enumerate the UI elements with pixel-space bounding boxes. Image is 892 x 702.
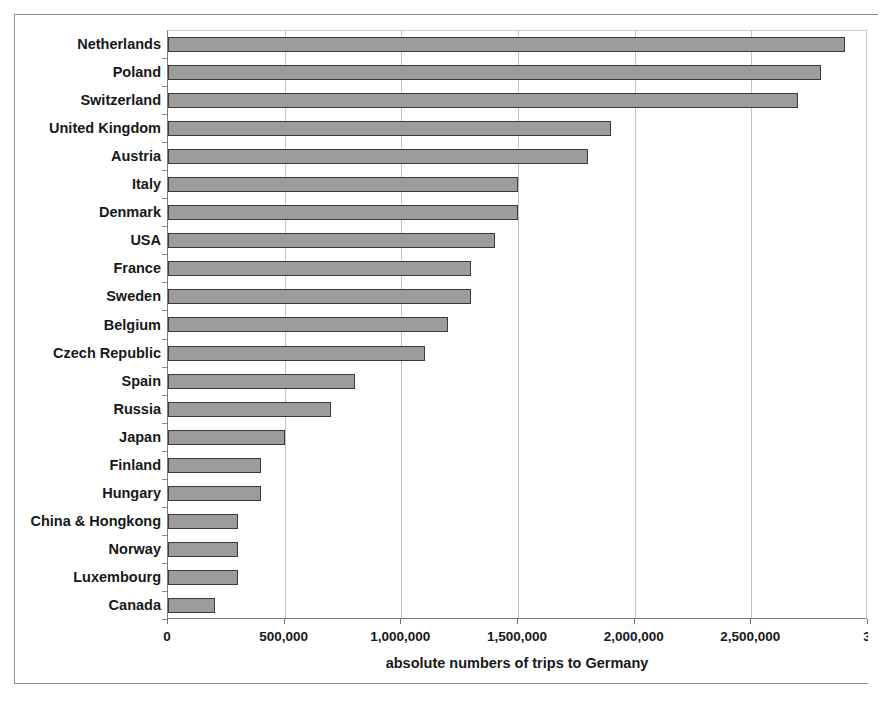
x-tick-label: 1,500,000 [487, 629, 547, 644]
bar[interactable] [168, 93, 798, 108]
bar-row [168, 311, 866, 339]
bar[interactable] [168, 289, 471, 304]
bar-row [168, 340, 866, 368]
bar[interactable] [168, 374, 355, 389]
y-tick-mark [162, 507, 167, 508]
bar-row [168, 452, 866, 480]
category-label: Switzerland [16, 93, 161, 108]
bar[interactable] [168, 233, 495, 248]
bar[interactable] [168, 570, 238, 585]
y-tick-mark [162, 114, 167, 115]
bar-row [168, 283, 866, 311]
right-edge-clip-mask [868, 15, 879, 685]
category-label: Japan [16, 430, 161, 445]
bar-series [168, 31, 866, 618]
bar[interactable] [168, 177, 518, 192]
category-label: France [16, 261, 161, 276]
bar-row [168, 368, 866, 396]
x-tick-mark [400, 619, 401, 624]
y-tick-mark [162, 563, 167, 564]
bar-row [168, 592, 866, 620]
category-label: Luxembourg [16, 570, 161, 585]
bar[interactable] [168, 458, 261, 473]
y-tick-mark [162, 367, 167, 368]
bar[interactable] [168, 317, 448, 332]
bar-row [168, 171, 866, 199]
x-tick-label: 2,500,000 [720, 629, 780, 644]
bar[interactable] [168, 37, 845, 52]
y-tick-mark [162, 451, 167, 452]
category-label: China & Hongkong [16, 514, 161, 529]
bar[interactable] [168, 205, 518, 220]
y-tick-mark [162, 226, 167, 227]
category-label: Austria [16, 149, 161, 164]
bar[interactable] [168, 486, 261, 501]
y-tick-mark [162, 339, 167, 340]
y-tick-mark [162, 58, 167, 59]
y-tick-mark [162, 198, 167, 199]
bar-row [168, 115, 866, 143]
bar-row [168, 87, 866, 115]
bar-row [168, 564, 866, 592]
bar-row [168, 143, 866, 171]
x-tick-mark [167, 619, 168, 624]
category-label: Russia [16, 402, 161, 417]
bar-row [168, 508, 866, 536]
x-tick-label: 500,000 [259, 629, 308, 644]
y-tick-mark [162, 423, 167, 424]
x-tick-mark [517, 619, 518, 624]
y-tick-mark [162, 591, 167, 592]
x-tick-mark [750, 619, 751, 624]
x-tick-mark [634, 619, 635, 624]
bar[interactable] [168, 121, 611, 136]
bar-row [168, 59, 866, 87]
y-tick-mark [162, 170, 167, 171]
category-label: Hungary [16, 486, 161, 501]
bar[interactable] [168, 514, 238, 529]
y-tick-mark [162, 479, 167, 480]
x-tick-label: 0 [163, 629, 171, 644]
bar[interactable] [168, 149, 588, 164]
y-tick-mark [162, 395, 167, 396]
bar-row [168, 424, 866, 452]
y-tick-mark [162, 142, 167, 143]
bar[interactable] [168, 542, 238, 557]
category-label: Canada [16, 598, 161, 613]
y-tick-mark [162, 86, 167, 87]
bar-row [168, 536, 866, 564]
y-tick-mark [162, 535, 167, 536]
y-tick-mark [162, 282, 167, 283]
x-tick-mark [284, 619, 285, 624]
y-tick-mark [162, 254, 167, 255]
x-tick-label: 1,000,000 [370, 629, 430, 644]
bar[interactable] [168, 346, 425, 361]
x-axis-title: absolute numbers of trips to Germany [167, 655, 867, 671]
category-label: Netherlands [16, 37, 161, 52]
bar[interactable] [168, 430, 285, 445]
category-label: Belgium [16, 318, 161, 333]
category-label: Italy [16, 177, 161, 192]
category-label: Finland [16, 458, 161, 473]
category-label: Spain [16, 374, 161, 389]
bar[interactable] [168, 65, 821, 80]
chart-figure-frame: NetherlandsPolandSwitzerlandUnited Kingd… [14, 14, 878, 684]
bar-row [168, 480, 866, 508]
bar-row [168, 255, 866, 283]
bar[interactable] [168, 402, 331, 417]
plot-area [167, 30, 867, 619]
bar-row [168, 396, 866, 424]
bar[interactable] [168, 598, 215, 613]
bar-row [168, 199, 866, 227]
y-tick-mark [162, 310, 167, 311]
bar-row [168, 31, 866, 59]
bar-chart: NetherlandsPolandSwitzerlandUnited Kingd… [15, 15, 879, 685]
category-label: USA [16, 233, 161, 248]
x-tick-label: 2,000,000 [604, 629, 664, 644]
category-label: Sweden [16, 289, 161, 304]
bar-row [168, 227, 866, 255]
category-label: United Kingdom [16, 121, 161, 136]
category-label: Denmark [16, 205, 161, 220]
category-label: Norway [16, 542, 161, 557]
bar[interactable] [168, 261, 471, 276]
category-label: Poland [16, 65, 161, 80]
